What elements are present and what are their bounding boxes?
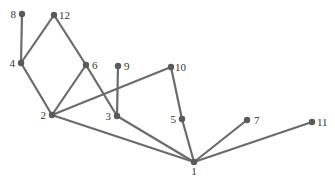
node-11 bbox=[309, 119, 315, 125]
node-7 bbox=[244, 117, 250, 123]
node-label-3: 3 bbox=[106, 110, 112, 122]
node-2 bbox=[49, 112, 55, 118]
node-label-8: 8 bbox=[11, 8, 17, 20]
edge-10-5 bbox=[171, 67, 182, 119]
edge-8-4 bbox=[21, 14, 22, 63]
node-4 bbox=[18, 60, 24, 66]
edge-4-2 bbox=[21, 63, 52, 115]
node-label-9: 9 bbox=[124, 60, 130, 72]
node-label-7: 7 bbox=[254, 114, 260, 126]
node-label-2: 2 bbox=[41, 109, 47, 121]
graph-labels: 123456789101112 bbox=[10, 8, 328, 177]
graph-nodes bbox=[18, 11, 315, 165]
node-3 bbox=[114, 113, 120, 119]
node-label-1: 1 bbox=[191, 165, 197, 177]
node-label-10: 10 bbox=[175, 61, 187, 73]
edge-7-1 bbox=[194, 120, 247, 162]
edge-4-12 bbox=[21, 15, 54, 63]
node-label-4: 4 bbox=[10, 57, 16, 69]
graph-diagram: 123456789101112 bbox=[0, 0, 335, 184]
node-12 bbox=[51, 12, 57, 18]
edge-11-1 bbox=[194, 122, 312, 162]
node-10 bbox=[168, 64, 174, 70]
graph-edges bbox=[21, 14, 312, 162]
node-6 bbox=[83, 62, 89, 68]
node-8 bbox=[19, 11, 25, 17]
node-5 bbox=[179, 116, 185, 122]
node-label-6: 6 bbox=[92, 59, 98, 71]
node-label-5: 5 bbox=[171, 113, 177, 125]
node-9 bbox=[115, 63, 121, 69]
edge-12-6 bbox=[54, 15, 86, 65]
node-label-11: 11 bbox=[317, 116, 328, 128]
node-label-12: 12 bbox=[59, 9, 70, 21]
edge-9-3 bbox=[117, 66, 118, 116]
